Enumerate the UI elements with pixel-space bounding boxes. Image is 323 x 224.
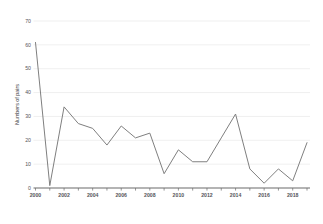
x-tick-label-2016: 2016 <box>258 192 270 198</box>
x-tick-label-2008: 2008 <box>144 192 156 198</box>
y-tick-label-0: 0 <box>28 185 31 191</box>
y-tick-label-40: 40 <box>25 89 31 95</box>
x-tick-label-2018: 2018 <box>287 192 299 198</box>
y-tick-label-30: 30 <box>25 113 31 119</box>
y-tick-label-60: 60 <box>25 42 31 48</box>
x-tick-label-2006: 2006 <box>115 192 127 198</box>
x-tick-label-2002: 2002 <box>58 192 70 198</box>
chart-container: 010203040506070 200020022004200620082010… <box>0 0 323 224</box>
y-tick-label-10: 10 <box>25 161 31 167</box>
x-tick-label-2004: 2004 <box>87 192 99 198</box>
x-tick-label-2014: 2014 <box>230 192 242 198</box>
y-axis-tick-labels: 010203040506070 <box>25 18 31 191</box>
x-axis-tick-labels: 2000200220042006200820102012201420162018 <box>30 192 299 198</box>
line-chart: 010203040506070 200020022004200620082010… <box>0 0 323 224</box>
x-tick-label-2000: 2000 <box>30 192 42 198</box>
y-tick-label-50: 50 <box>25 65 31 71</box>
y-tick-label-70: 70 <box>25 18 31 24</box>
y-axis-title-text: Numbers of pairs <box>14 84 20 125</box>
gridlines <box>34 21 311 164</box>
x-tick-label-2012: 2012 <box>201 192 213 198</box>
chart-svg: 010203040506070 200020022004200620082010… <box>0 0 323 224</box>
y-tick-label-20: 20 <box>25 137 31 143</box>
x-axis <box>34 188 311 191</box>
y-axis-title: Numbers of pairs <box>14 84 20 125</box>
x-tick-label-2010: 2010 <box>173 192 185 198</box>
